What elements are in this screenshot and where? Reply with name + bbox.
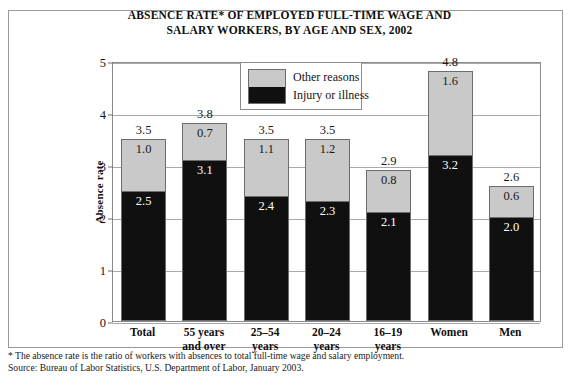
y-axis-tick-label: 5 [100,56,106,71]
x-axis-label: Men [480,326,541,340]
x-axis-label: 20–24years [296,326,357,353]
bar-segment-value-injury-or-illness: 3.1 [183,163,226,177]
bar-segment-other-reasons[interactable]: 0.7 [183,124,226,160]
bar-total-value: 2.6 [489,170,534,184]
bar-stack[interactable]: 1.12.4 [244,139,289,321]
bar-segment-value-injury-or-illness: 2.4 [245,199,288,213]
bar-stack[interactable]: 0.73.1 [182,123,227,321]
y-axis-tick-label: 2 [100,212,106,227]
x-axis-label-line: Men [480,326,541,340]
bar-total-value: 4.8 [428,55,473,69]
legend-label-injury-or-illness: Injury or illness [293,88,369,102]
bar-stack[interactable]: 1.63.2 [428,71,473,321]
bar-segment-value-injury-or-illness: 2.1 [367,215,410,229]
y-axis-tick-label: 4 [100,108,106,123]
x-axis-label-line: Total [112,326,173,340]
legend-swatch-other-reasons [249,70,285,87]
bar-segment-value-other-reasons: 0.7 [183,126,226,140]
y-axis-tick-mark [108,323,113,324]
bar-segment-other-reasons[interactable]: 1.6 [429,72,472,154]
footnote-asterisk: * The absence rate is the ratio of worke… [8,350,573,362]
bar-total-value: 2.9 [366,154,411,168]
y-axis-tick-label: 3 [100,160,106,175]
bar-segment-value-injury-or-illness: 2.3 [306,204,349,218]
bar-segment-value-injury-or-illness: 3.2 [429,158,472,172]
bar-segment-other-reasons[interactable]: 0.6 [490,187,533,218]
bar-total-value: 3.5 [305,123,350,137]
bar-segment-injury-or-illness[interactable]: 2.1 [367,212,410,320]
bar-stack[interactable]: 0.62.0 [489,186,534,321]
bar-group[interactable]: 1.02.53.5 [121,61,166,321]
x-axis-label-line: 16–19 [357,326,418,340]
bar-group[interactable]: 0.62.02.6 [489,61,534,321]
gridline [113,323,540,324]
y-axis-tick-label: 0 [100,316,106,331]
x-axis-label-line: Women [418,326,479,340]
bar-group[interactable]: 1.63.24.8 [428,61,473,321]
legend-swatch-injury-or-illness [249,87,285,104]
bar-segment-injury-or-illness[interactable]: 2.3 [306,201,349,320]
footnotes: * The absence rate is the ratio of worke… [8,350,573,373]
x-axis-label: 55 yearsand over [173,326,234,353]
bar-segment-value-other-reasons: 0.8 [367,173,410,187]
chart-title-line-2: SALARY WORKERS, BY AGE AND SEX, 2002 [0,23,579,38]
x-axis-label: Total [112,326,173,340]
legend-label-other-reasons: Other reasons [293,70,359,84]
bar-segment-injury-or-illness[interactable]: 3.2 [429,155,472,320]
x-axis-label-line: 25–54 [235,326,296,340]
bar-group[interactable]: 0.73.13.8 [182,61,227,321]
bar-stack[interactable]: 1.02.5 [121,139,166,321]
bar-stack[interactable]: 0.82.1 [366,170,411,321]
bar-segment-injury-or-illness[interactable]: 3.1 [183,160,226,320]
bar-segment-injury-or-illness[interactable]: 2.0 [490,217,533,320]
bar-segment-value-other-reasons: 0.6 [490,189,533,203]
x-axis-label-line: 55 years [173,326,234,340]
legend: Other reasons Injury or illness [240,62,362,110]
bar-segment-value-other-reasons: 1.0 [122,142,165,156]
x-axis-label: 16–19years [357,326,418,353]
bar-segment-other-reasons[interactable]: 1.2 [306,140,349,201]
bar-segment-value-other-reasons: 1.1 [245,142,288,156]
chart-title-line-1: ABSENCE RATE* OF EMPLOYED FULL-TIME WAGE… [0,8,579,23]
bar-segment-other-reasons[interactable]: 1.1 [245,140,288,196]
bar-total-value: 3.8 [182,107,227,121]
bar-segment-value-other-reasons: 1.2 [306,142,349,156]
bar-segment-value-other-reasons: 1.6 [429,74,472,88]
legend-swatches [248,69,286,104]
bar-segment-value-injury-or-illness: 2.5 [122,194,165,208]
x-axis-label: 25–54years [235,326,296,353]
bar-stack[interactable]: 1.22.3 [305,139,350,321]
bar-segment-injury-or-illness[interactable]: 2.4 [245,196,288,320]
bar-segment-other-reasons[interactable]: 1.0 [122,140,165,191]
bar-segment-injury-or-illness[interactable]: 2.5 [122,191,165,320]
y-axis-tick-label: 1 [100,264,106,279]
x-axis-label: Women [418,326,479,340]
bar-group[interactable]: 0.82.12.9 [366,61,411,321]
bar-total-value: 3.5 [244,123,289,137]
footnote-source: Source: Bureau of Labor Statistics, U.S.… [8,362,573,374]
x-axis-label-line: 20–24 [296,326,357,340]
bar-segment-value-injury-or-illness: 2.0 [490,220,533,234]
bar-total-value: 3.5 [121,123,166,137]
chart-title: ABSENCE RATE* OF EMPLOYED FULL-TIME WAGE… [0,8,579,38]
bar-segment-other-reasons[interactable]: 0.8 [367,171,410,212]
